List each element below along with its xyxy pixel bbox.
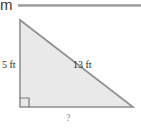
label-hypotenuse: 13 ft <box>73 59 92 70</box>
triangle-drawing <box>0 0 141 130</box>
label-base-unknown: ? <box>66 112 70 123</box>
geometry-figure: m 5 ft 13 ft ? <box>0 0 141 130</box>
label-vertical-leg: 5 ft <box>2 59 16 70</box>
